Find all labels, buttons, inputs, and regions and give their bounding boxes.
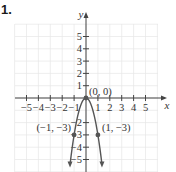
y-tick-label: −5 [71,154,82,165]
x-tick-label: 2 [107,102,112,113]
y-tick-label: 2 [77,68,82,79]
y-tick-label: 1 [77,80,82,91]
x-tick-label: 4 [131,102,137,113]
point-marker [84,96,89,101]
x-tick-label: 3 [119,102,124,113]
point-label: (−1, −3) [37,122,72,134]
x-tick-label: 1 [95,102,100,113]
x-tick-label: 5 [143,102,148,113]
x-axis-label: x [164,99,170,111]
x-tick-label: −2 [57,102,68,113]
parabola-chart: xy −5−4−3−2−11234554321−2−3−4−5 (0, 0)(−… [0,0,176,172]
y-axis-arrow-icon [84,12,89,18]
x-tick-label: −1 [69,102,80,113]
point-label: (1, −3) [102,122,131,134]
x-tick-label: −3 [45,102,56,113]
x-tick-label: −4 [33,102,45,113]
x-tick-label: −5 [21,102,32,113]
y-tick-label: 5 [77,31,82,42]
point-marker [72,133,77,138]
y-tick-label: 4 [77,43,83,54]
curve-arrow-icon [99,161,104,167]
y-tick-label: 3 [77,56,82,67]
point-marker [96,133,101,138]
point-label: (0, 0) [89,86,112,98]
y-axis-label: y [78,8,84,20]
